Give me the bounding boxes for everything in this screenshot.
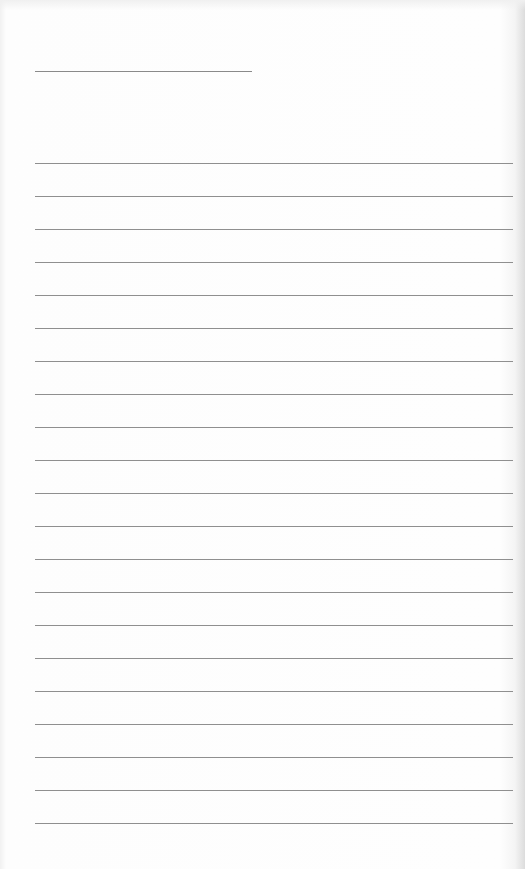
ruled-line: [35, 658, 513, 659]
ruled-line: [35, 493, 513, 494]
ruled-line: [35, 823, 513, 824]
ruled-line: [35, 460, 513, 461]
ruled-line: [35, 724, 513, 725]
ruled-line: [35, 196, 513, 197]
ruled-line: [35, 328, 513, 329]
ruled-line: [35, 229, 513, 230]
ruled-line: [35, 163, 513, 164]
top-edge-shade: [0, 0, 525, 10]
ruled-line: [35, 790, 513, 791]
ruled-line: [35, 262, 513, 263]
ruled-line: [35, 559, 513, 560]
ruled-line: [35, 427, 513, 428]
ruled-line: [35, 361, 513, 362]
ruled-line: [35, 625, 513, 626]
ruled-line: [35, 526, 513, 527]
ruled-line: [35, 394, 513, 395]
lined-paper-page: [0, 0, 525, 869]
ruled-line: [35, 295, 513, 296]
ruled-line: [35, 691, 513, 692]
ruled-line: [35, 757, 513, 758]
ruled-line: [35, 592, 513, 593]
header-blank-line: [35, 71, 252, 72]
